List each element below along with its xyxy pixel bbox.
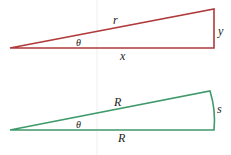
label-s: s bbox=[217, 102, 222, 116]
diagram: r y x θ R s R θ bbox=[0, 0, 231, 155]
right-triangle: r y x θ bbox=[10, 9, 224, 63]
label-y: y bbox=[217, 24, 224, 38]
label-R-bottom: R bbox=[117, 131, 126, 145]
circular-sector: R s R θ bbox=[10, 91, 222, 145]
label-R-top: R bbox=[113, 95, 122, 109]
label-x: x bbox=[119, 49, 126, 63]
label-r: r bbox=[113, 13, 118, 27]
label-theta-1: θ bbox=[76, 37, 81, 48]
label-theta-2: θ bbox=[76, 119, 81, 130]
